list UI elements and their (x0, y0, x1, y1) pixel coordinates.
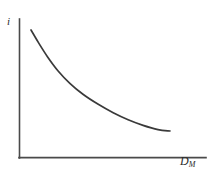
demand-curve-path (31, 30, 170, 131)
x-axis-label: DM (180, 155, 195, 169)
x-axis-label-subscript: M (189, 160, 196, 169)
data-curve-group (31, 30, 170, 131)
y-axis-label: i (7, 16, 10, 27)
chart-canvas (0, 0, 214, 178)
x-axis-label-base: D (180, 154, 189, 168)
axes-group (19, 19, 206, 158)
money-demand-chart: i DM (0, 0, 214, 178)
